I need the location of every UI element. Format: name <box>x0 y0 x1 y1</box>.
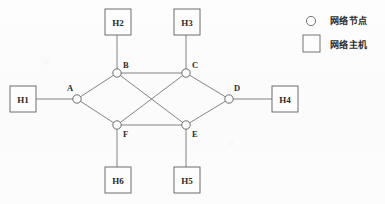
edge-a-b <box>77 73 117 99</box>
node-label-b: B <box>123 60 129 70</box>
legend-host-label: 网络主机 <box>330 38 368 51</box>
host-label-h3: H3 <box>181 18 193 28</box>
legend-node-circle-icon <box>306 16 315 25</box>
legend-node-label: 网络节点 <box>330 14 368 27</box>
nodes-group: A B C D E F <box>67 60 240 139</box>
host-label-h1: H1 <box>17 95 29 105</box>
host-label-h5: H5 <box>181 176 193 186</box>
edges-group <box>77 73 229 125</box>
node-circle-f[interactable] <box>113 121 121 129</box>
edge-a-f <box>77 99 117 125</box>
node-circle-c[interactable] <box>182 69 190 77</box>
legend-group <box>303 16 320 52</box>
node-circle-a[interactable] <box>73 95 81 103</box>
host-label-h2: H2 <box>112 18 124 28</box>
diagram-canvas: H1 H2 H3 H4 H5 H6 A B C D E F <box>0 0 385 204</box>
host-label-h6: H6 <box>112 176 124 186</box>
node-label-d: D <box>234 83 240 93</box>
node-circle-d[interactable] <box>225 95 233 103</box>
node-label-a: A <box>67 83 74 93</box>
network-topology-svg: H1 H2 H3 H4 H5 H6 A B C D E F <box>0 0 385 204</box>
node-label-e: E <box>192 129 198 139</box>
node-label-f: F <box>123 129 128 139</box>
legend-host-square-icon <box>303 35 320 52</box>
node-circle-e[interactable] <box>182 121 190 129</box>
node-circle-b[interactable] <box>113 69 121 77</box>
host-label-h4: H4 <box>279 95 291 105</box>
edge-d-e <box>186 99 229 125</box>
edge-c-d <box>186 73 229 99</box>
node-label-c: C <box>192 60 198 70</box>
